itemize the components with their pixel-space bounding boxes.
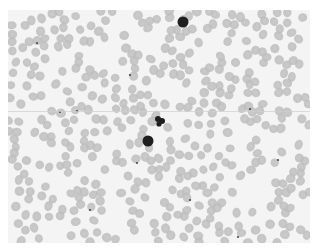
red-blood-cell (13, 219, 23, 229)
red-blood-cell (234, 169, 247, 182)
red-blood-cell (159, 98, 172, 111)
red-blood-cell (294, 175, 307, 188)
red-blood-cell (183, 222, 195, 234)
red-blood-cell (126, 83, 138, 95)
red-blood-cell (100, 78, 109, 88)
red-blood-cell (272, 10, 283, 18)
red-blood-cell (70, 216, 82, 227)
red-blood-cell (179, 133, 191, 145)
red-blood-cell (39, 52, 52, 65)
red-blood-cell (207, 161, 219, 173)
red-blood-cell (20, 79, 33, 92)
red-blood-cell (87, 151, 98, 162)
neutrophil-nucleus-lobe (156, 121, 161, 126)
red-blood-cell (8, 46, 17, 55)
lymphocyte (178, 17, 189, 28)
platelet (89, 209, 91, 211)
red-blood-cell (8, 92, 16, 104)
red-blood-cell (184, 151, 194, 160)
red-blood-cell (110, 73, 120, 83)
red-blood-cell (273, 81, 282, 90)
red-blood-cell (193, 120, 204, 130)
red-blood-cell (34, 159, 46, 171)
red-blood-cell (162, 162, 170, 172)
red-blood-cell (215, 172, 224, 181)
red-blood-cell (8, 114, 15, 126)
red-blood-cell (71, 11, 81, 20)
red-blood-cell (59, 23, 68, 33)
red-blood-cell (182, 117, 194, 129)
red-blood-cell (149, 226, 161, 238)
red-blood-cell (40, 181, 52, 192)
platelet (237, 236, 239, 238)
red-blood-cell (8, 81, 15, 89)
red-blood-cell (250, 225, 262, 236)
red-blood-cell (189, 140, 202, 153)
red-blood-cell (193, 37, 204, 49)
red-blood-cell (8, 21, 17, 29)
red-blood-cell (15, 186, 25, 195)
red-blood-cell (96, 10, 107, 17)
red-blood-cell (219, 115, 231, 127)
red-blood-cell (43, 161, 54, 173)
red-blood-cell (13, 162, 22, 171)
red-blood-cell (119, 30, 130, 40)
red-blood-cell (99, 164, 110, 175)
platelet (277, 159, 279, 161)
red-blood-cell (15, 234, 28, 243)
red-blood-cell (275, 146, 288, 159)
red-blood-cell (286, 41, 297, 53)
red-blood-cell (90, 128, 100, 137)
red-blood-cell (101, 124, 114, 137)
red-blood-cell (9, 200, 22, 213)
red-blood-cell (68, 114, 80, 126)
red-blood-cell (49, 77, 62, 90)
red-blood-cell (222, 127, 234, 138)
red-blood-cell (226, 28, 237, 39)
red-blood-cell (34, 70, 46, 81)
red-blood-cell (57, 66, 67, 76)
red-blood-cell (241, 36, 253, 47)
red-blood-cell (58, 205, 66, 215)
platelet (136, 162, 138, 164)
red-blood-cell (141, 76, 151, 86)
red-blood-cell (125, 115, 137, 126)
platelet (36, 42, 38, 44)
red-blood-cell (35, 234, 43, 243)
red-blood-cell (273, 186, 285, 198)
blood-cells-canvas (8, 10, 310, 243)
red-blood-cell (8, 67, 19, 79)
red-blood-cell (131, 154, 141, 164)
red-blood-cell (100, 15, 112, 27)
platelet (249, 108, 251, 110)
red-blood-cell (282, 86, 292, 96)
red-blood-cell (298, 13, 308, 23)
red-blood-cell (205, 118, 216, 129)
red-blood-cell (229, 56, 242, 69)
red-blood-cell (268, 42, 281, 55)
red-blood-cell (269, 157, 280, 168)
red-blood-cell (107, 10, 116, 16)
red-blood-cell (55, 107, 67, 119)
red-blood-cell (265, 219, 276, 229)
red-blood-cell (43, 211, 54, 222)
red-blood-cell (77, 82, 88, 92)
red-blood-cell (228, 10, 237, 20)
red-blood-cell (97, 67, 110, 79)
red-blood-cell (222, 225, 234, 237)
micrograph-frame (0, 0, 318, 249)
red-blood-cell (10, 56, 22, 68)
red-blood-cell (124, 196, 136, 207)
red-blood-cell (92, 228, 102, 237)
red-blood-cell (272, 238, 282, 243)
red-blood-cell (66, 230, 77, 241)
red-blood-cell (87, 202, 96, 211)
red-blood-cell (232, 207, 241, 218)
red-blood-cell (32, 211, 42, 222)
platelet (129, 74, 131, 76)
red-blood-cell (198, 164, 210, 176)
red-blood-cell (80, 176, 90, 186)
red-blood-cell (295, 154, 304, 163)
red-blood-cell (110, 82, 123, 95)
red-blood-cell (49, 24, 60, 36)
